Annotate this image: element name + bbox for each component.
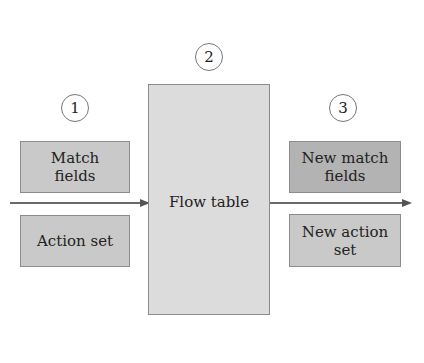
- step-3-number: 3: [338, 99, 348, 117]
- step-1-circle: 1: [61, 94, 89, 122]
- step-2-number: 2: [204, 48, 214, 66]
- action-set-box: Action set: [20, 215, 130, 267]
- new-match-fields-box: New match fields: [289, 141, 401, 193]
- new-action-set-box: New action set: [289, 214, 401, 267]
- step-2-circle: 2: [195, 43, 223, 71]
- input-arrow-line: [10, 202, 148, 204]
- match-fields-box: Match fields: [20, 141, 130, 193]
- flow-table-box: Flow table: [148, 84, 270, 315]
- match-fields-label: Match fields: [40, 149, 110, 185]
- step-1-number: 1: [70, 99, 80, 117]
- new-action-set-label: New action set: [295, 223, 395, 259]
- action-set-label: Action set: [37, 232, 113, 250]
- flow-table-label: Flow table: [169, 193, 249, 211]
- output-arrow-line: [270, 202, 404, 204]
- step-3-circle: 3: [329, 94, 357, 122]
- output-arrow-head-icon: [402, 199, 412, 207]
- new-match-fields-label: New match fields: [295, 149, 395, 185]
